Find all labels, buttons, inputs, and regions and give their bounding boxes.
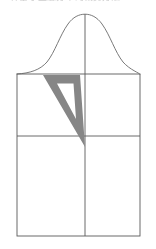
technical-figure	[0, 0, 156, 249]
bell-curve-path	[17, 14, 140, 74]
figure-page: 一种基于正态分布的裁剪方法	[0, 0, 156, 249]
